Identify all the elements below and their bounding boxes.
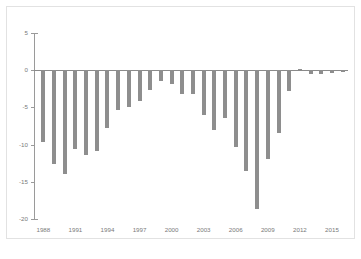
bar — [148, 70, 152, 89]
x-axis-tick-label: 1994 — [92, 226, 122, 233]
y-axis-tick-label: 0 — [2, 66, 28, 73]
bar — [95, 70, 99, 151]
y-axis-tick — [31, 107, 34, 108]
y-axis-tick-label: -10 — [2, 141, 28, 148]
bar — [234, 70, 238, 147]
bar — [52, 70, 56, 164]
x-axis-tick-label: 2003 — [189, 226, 219, 233]
bar — [255, 70, 259, 208]
x-axis-tick-label: 1988 — [28, 226, 58, 233]
x-axis-tick-label: 2012 — [285, 226, 315, 233]
y-axis-tick-label: -15 — [2, 178, 28, 185]
x-axis-tick-label: 2000 — [157, 226, 187, 233]
chart-figure: 50-5-10-15-20198819911994199720002003200… — [0, 0, 361, 259]
bar — [309, 70, 313, 74]
chart-plot-area: 50-5-10-15-20198819911994199720002003200… — [0, 0, 361, 259]
bar — [116, 70, 120, 110]
x-axis-tick-label: 2006 — [221, 226, 251, 233]
y-axis-tick-label: 5 — [2, 29, 28, 36]
bar — [223, 70, 227, 118]
bar — [244, 70, 248, 171]
bar — [170, 70, 174, 84]
bar — [84, 70, 88, 155]
bar — [105, 70, 109, 128]
y-axis-spine — [34, 33, 35, 219]
bar — [127, 70, 131, 106]
x-axis-tick-label: 2009 — [253, 226, 283, 233]
y-axis-tick — [31, 182, 34, 183]
y-axis-tick — [31, 145, 34, 146]
x-axis-tick-label: 1997 — [125, 226, 155, 233]
bar — [191, 70, 195, 94]
y-axis-tick-label: -5 — [2, 103, 28, 110]
bar — [63, 70, 67, 174]
x-axis-tick-label: 2015 — [317, 226, 347, 233]
bar — [277, 70, 281, 133]
y-axis-tick-label: -20 — [2, 215, 28, 222]
bar — [41, 70, 45, 141]
bar — [266, 70, 270, 159]
bar — [298, 69, 302, 70]
bar — [330, 70, 334, 73]
bar — [159, 70, 163, 80]
bar — [180, 70, 184, 94]
bar — [319, 70, 323, 74]
bar — [287, 70, 291, 91]
x-axis-tick-label: 1991 — [60, 226, 90, 233]
bar — [212, 70, 216, 130]
y-axis-foot — [34, 219, 38, 220]
bar — [73, 70, 77, 149]
bar — [202, 70, 206, 115]
bar — [341, 70, 345, 72]
y-axis-head — [34, 33, 38, 34]
bar — [138, 70, 142, 101]
